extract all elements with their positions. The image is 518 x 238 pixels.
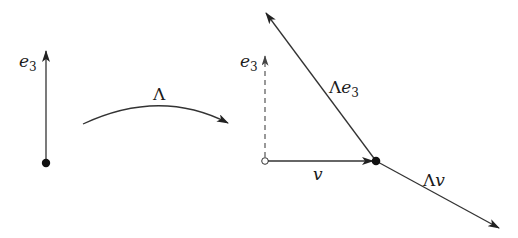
lambda-e3-arrow <box>266 13 376 161</box>
origin-open-point <box>262 158 269 165</box>
curved-arrow-icon <box>83 106 228 124</box>
lambda-v-label: Λv <box>422 170 445 190</box>
e3-label: e3 <box>19 51 37 74</box>
transform-arc: Λ <box>83 84 228 124</box>
lambda-e3-label: Λe3 <box>328 77 359 100</box>
lambda-label: Λ <box>152 84 166 104</box>
dashed-e3-label: e3 <box>240 51 258 74</box>
left-e3-vector: e3 <box>19 51 50 167</box>
diagram-canvas: e3 Λ e3 v Λe3 Λv <box>0 0 518 238</box>
v-label: v <box>313 164 323 184</box>
transformed-point <box>372 157 381 166</box>
origin-point <box>42 159 50 167</box>
right-panel: e3 v Λe3 Λv <box>240 13 499 228</box>
